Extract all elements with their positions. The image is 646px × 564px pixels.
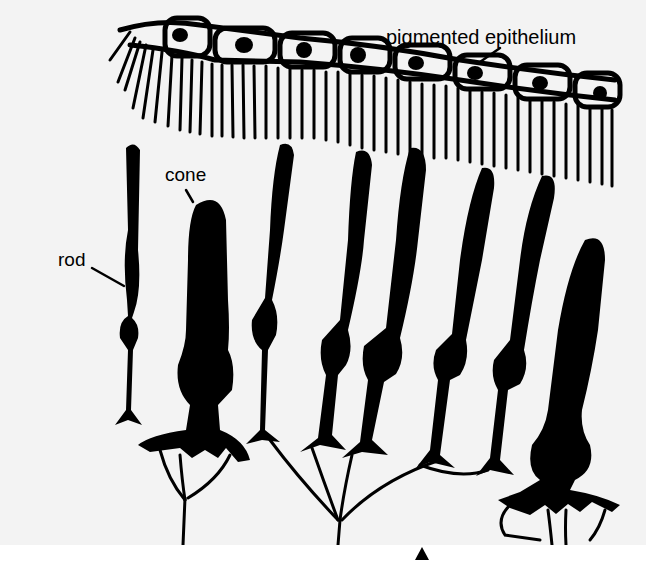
retina-diagram: pigmented epithelium cone rod — [0, 0, 646, 545]
label-rod: rod — [58, 250, 85, 269]
label-cone: cone — [165, 165, 206, 184]
label-pigmented-epithelium: pigmented epithelium — [386, 27, 576, 47]
triangle-marker-icon — [415, 547, 429, 560]
cone-leader — [186, 190, 193, 202]
rods — [115, 144, 555, 476]
retina-drawing — [0, 0, 646, 545]
rod-leader — [92, 268, 124, 286]
